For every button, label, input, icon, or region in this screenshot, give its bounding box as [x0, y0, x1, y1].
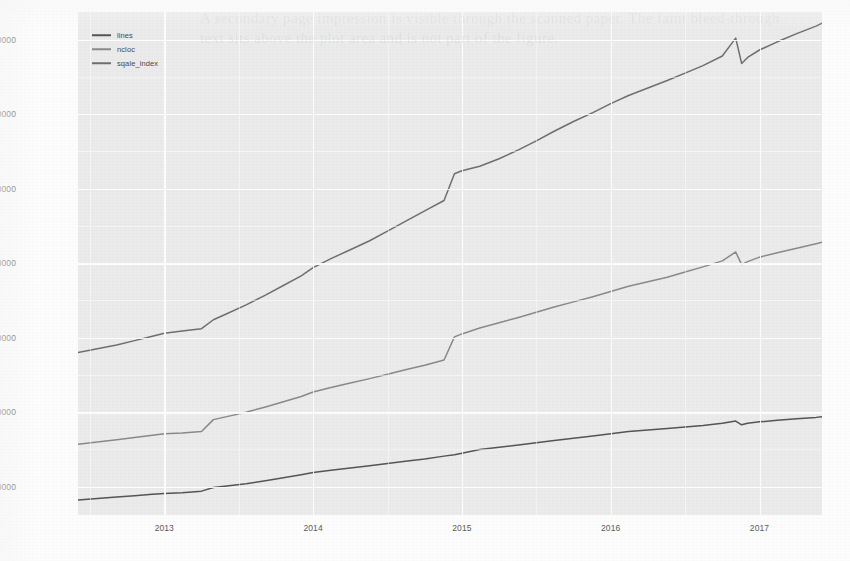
gridline [462, 12, 463, 515]
y-axis-tick-label: 500000 [0, 184, 16, 194]
gridline [90, 12, 91, 515]
y-axis-tick-label: 200000 [0, 407, 16, 417]
gridline [78, 189, 822, 190]
y-axis-tick-label: 700000 [0, 35, 16, 45]
legend-item-label: lines [117, 31, 133, 40]
y-axis-tick-label: 600000 [0, 109, 16, 119]
gridline [78, 375, 822, 376]
gridline [313, 12, 314, 515]
legend-line-swatch-icon [91, 29, 112, 42]
legend-line-swatch-icon [91, 43, 112, 56]
gridline [78, 40, 822, 41]
x-axis-tick-label: 2015 [452, 523, 471, 533]
gridline [78, 114, 822, 115]
gridline [239, 12, 240, 515]
gridline [78, 338, 822, 339]
legend-item-sqale_index[interactable]: sqale_index [91, 56, 158, 70]
y-axis-tick-label: 300000 [0, 333, 16, 343]
gridline [78, 151, 822, 152]
series-line-ncloc [78, 242, 822, 444]
y-axis-tick-label: 400000 [0, 258, 16, 268]
plot-panel [78, 12, 822, 515]
gridline [388, 12, 389, 515]
legend-item-label: sqale_index [117, 59, 158, 68]
gridline [78, 77, 822, 78]
gridline [78, 487, 822, 488]
gridline [536, 12, 537, 515]
gridline [760, 12, 761, 515]
gridline [78, 226, 822, 227]
y-axis-tick-label: 100000 [0, 482, 16, 492]
x-axis-tick-label: 2017 [750, 523, 769, 533]
legend-item-label: ncloc [117, 45, 135, 54]
x-axis-tick-label: 2013 [155, 523, 174, 533]
legend-line-swatch-icon [91, 57, 112, 70]
gridline [78, 300, 822, 301]
gridline [164, 12, 165, 515]
gridline [78, 412, 822, 413]
gridline [78, 449, 822, 450]
gridline [78, 263, 822, 264]
gridline [611, 12, 612, 515]
chart-legend: linesnclocsqale_index [88, 26, 161, 72]
x-axis-tick-label: 2014 [303, 523, 322, 533]
legend-item-lines[interactable]: lines [91, 28, 158, 42]
legend-item-ncloc[interactable]: ncloc [91, 42, 158, 56]
chart-figure: 1000002000003000004000005000006000007000… [0, 0, 850, 561]
gridline [685, 12, 686, 515]
x-axis-tick-label: 2016 [601, 523, 620, 533]
